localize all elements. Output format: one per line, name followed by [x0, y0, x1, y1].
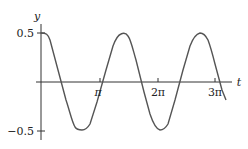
chart: y 0.5 −0.5 π 2π 3π t: [0, 0, 248, 149]
x-axis-label: t: [237, 76, 242, 89]
y-tick-label-bottom: −0.5: [7, 125, 34, 138]
x-tick-label-pi: π: [93, 86, 102, 99]
y-tick-label-top: 0.5: [17, 27, 35, 40]
x-tick-label-3pi: 3π: [208, 86, 222, 99]
x-tick-label-2pi: 2π: [151, 86, 165, 99]
y-axis-label: y: [33, 10, 41, 23]
